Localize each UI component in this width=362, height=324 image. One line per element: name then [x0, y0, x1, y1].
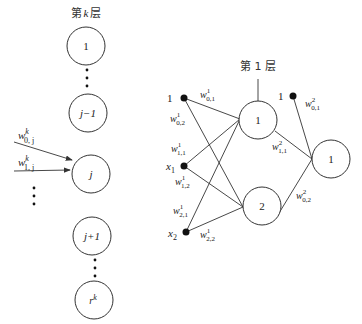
neural-network-diagram: 第k层 1 j−1 j j+1 rk wk0, j wk1, j: [0, 0, 362, 324]
weight-label-w1-22: w12,2: [200, 227, 215, 243]
layer-k-node-r-k: rk: [75, 281, 113, 319]
svg-text:j−1: j−1: [78, 107, 96, 119]
layer-1-edges: [184, 98, 243, 232]
svg-text:1: 1: [278, 90, 284, 102]
weight-label-w2-11: w21,1: [272, 139, 287, 155]
input-bias-1: 1: [167, 92, 188, 104]
weight-label-w1-21: w12,1: [173, 203, 188, 219]
weight-label-w0j: wk0, j: [18, 127, 34, 145]
svg-text:2: 2: [259, 200, 265, 212]
svg-text:1: 1: [167, 92, 173, 104]
weight-label-w1j: wk1, j: [18, 154, 34, 172]
weight-label-w2-01: w20,1: [305, 96, 320, 112]
layer-k-node-j-minus-1: j−1: [69, 94, 107, 132]
input-x1: x1: [165, 160, 188, 175]
output-node-1: 1: [312, 140, 350, 178]
hidden-node-1: 1: [239, 101, 277, 139]
input-bias-2: 1: [278, 90, 297, 102]
svg-text:x2: x2: [167, 227, 177, 242]
ellipsis-dots: [86, 69, 89, 88]
ellipsis-dots: [33, 187, 36, 206]
layer-1-title: 第 1 层: [240, 59, 276, 73]
hidden-node-2: 2: [243, 187, 281, 225]
weight-label-w1-02: w10,2: [170, 111, 185, 127]
edge-w1j: [14, 170, 70, 171]
svg-text:1: 1: [255, 114, 261, 126]
layer-k-node-j: j: [72, 155, 110, 193]
ellipsis-dots: [94, 259, 97, 278]
layer-k-node-j-plus-1: j+1: [73, 217, 111, 255]
weight-label-w2-02: w20,2: [296, 188, 311, 204]
weight-label-w1-12: w11,2: [175, 174, 190, 190]
weight-label-w1-01: w10,1: [200, 87, 215, 103]
svg-text:x1: x1: [165, 160, 175, 175]
layer-k-title: 第k层: [71, 6, 102, 20]
weight-label-w1-11: w11,1: [171, 141, 186, 157]
svg-text:j+1: j+1: [82, 230, 100, 242]
layer-k-node-1: 1: [67, 27, 105, 65]
input-x2: x2: [167, 227, 190, 242]
svg-text:1: 1: [328, 153, 334, 165]
svg-text:1: 1: [83, 40, 89, 52]
